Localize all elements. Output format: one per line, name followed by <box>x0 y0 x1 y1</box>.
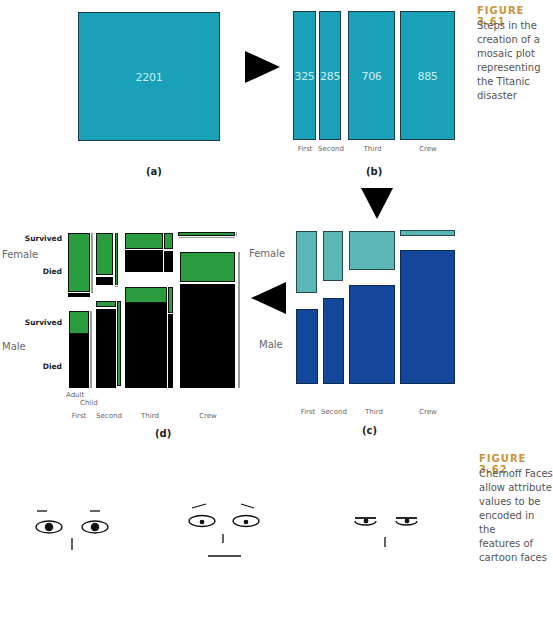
panel-d-cat-third: Third <box>132 412 168 420</box>
panel-d-label: (d) <box>155 428 171 439</box>
panel-c-label-female: Female <box>249 248 285 259</box>
panel-d-female-second-child-died <box>115 286 118 287</box>
panel-d-female-died-label: Died <box>20 267 62 276</box>
panel-c-male-third <box>349 285 395 384</box>
figure-362-caption: Chernoff Faces allow attribute values to… <box>479 467 553 565</box>
panel-d-female-third-child-survived <box>164 233 173 249</box>
panel-b-cat-crew: Crew <box>410 145 446 153</box>
panel-d-female-first-adult-survived <box>68 233 90 292</box>
panel-b-value-third: 706 <box>349 69 394 82</box>
panel-b-bar-first: 325 <box>293 11 316 140</box>
panel-d-female-third-adult-died <box>125 250 163 272</box>
panel-c-male-first <box>296 309 318 384</box>
panel-d-cat-second: Second <box>94 412 124 420</box>
chernoff-face-2 <box>189 504 259 556</box>
panel-c-female-first <box>296 231 317 293</box>
panel-b-bar-crew: 885 <box>400 11 455 140</box>
panel-c-male-second <box>323 298 344 384</box>
panel-d-male-survived-label: Survived <box>20 318 62 327</box>
panel-d-male-third-adult-died <box>125 303 167 388</box>
chernoff-face-1 <box>36 511 108 550</box>
panel-d-cat-first: First <box>68 412 90 420</box>
panel-d-male-crew-child <box>238 252 240 388</box>
panel-c-label-male: Male <box>259 339 283 350</box>
panel-d-female-crew-child <box>236 232 237 236</box>
panel-d-cat-crew: Crew <box>190 412 226 420</box>
panel-d-male-first-child <box>90 311 92 388</box>
panel-a-label: (a) <box>146 166 162 177</box>
panel-d-female-crew-survived <box>178 232 235 236</box>
panel-b-cat-first: First <box>293 145 317 153</box>
panel-d-female-first-child <box>91 233 93 293</box>
panel-d-female-crew-died <box>179 237 235 238</box>
arrow-right-icon <box>245 51 280 83</box>
panel-d-female-second-adult-died <box>96 277 113 285</box>
panel-d-age-adult: Adult <box>66 391 84 399</box>
panel-c-cat-first: First <box>296 408 320 416</box>
panel-d-female-second-adult-survived <box>96 233 113 275</box>
panel-c-female-crew <box>400 230 455 236</box>
arrow-down-icon <box>361 188 393 219</box>
panel-a-total-value: 2201 <box>79 70 219 83</box>
panel-b-value-first: 325 <box>294 69 315 82</box>
panel-d-male-second-adult-died <box>96 309 116 388</box>
panel-c-cat-third: Third <box>356 408 392 416</box>
panel-d-male-second-child-survived <box>117 301 121 386</box>
chernoff-face-3 <box>355 518 417 547</box>
panel-d-male-crew-died <box>180 284 235 388</box>
panel-d-male-third-child-survived <box>168 287 173 313</box>
panel-d-male-third-adult-survived <box>125 287 167 303</box>
arrow-left-icon <box>251 282 286 314</box>
panel-d-male-died-label: Died <box>20 362 62 371</box>
panel-b-bar-third: 706 <box>348 11 395 140</box>
panel-b-value-crew: 885 <box>401 69 454 82</box>
panel-d-label-female: Female <box>2 249 38 260</box>
panel-c-female-second <box>323 231 343 281</box>
panel-d-female-third-adult-survived <box>125 233 163 249</box>
panel-c-female-third <box>349 231 395 270</box>
panel-d-female-survived-label: Survived <box>20 234 62 243</box>
panel-b-label: (b) <box>366 166 382 177</box>
panel-b-bar-second: 285 <box>319 11 341 140</box>
panel-d-age-child: Child <box>80 399 98 407</box>
panel-d-male-second-adult-survived <box>96 301 116 307</box>
panel-d-male-third-child-died <box>168 314 173 388</box>
panel-a-total-box: 2201 <box>78 12 220 141</box>
panel-c-cat-second: Second <box>319 408 349 416</box>
panel-d-male-first-adult-survived <box>69 311 89 334</box>
panel-c-label: (c) <box>362 425 377 436</box>
chernoff-faces <box>0 500 470 632</box>
panel-d-label-male: Male <box>2 341 26 352</box>
panel-c-male-crew <box>400 250 455 384</box>
panel-d-male-first-adult-died <box>69 334 89 388</box>
panel-b-value-second: 285 <box>320 69 340 82</box>
panel-d-female-first-adult-died <box>68 293 90 297</box>
panel-d-male-crew-survived <box>180 252 235 282</box>
figure-361-caption: Steps in the creation of a mosaic plot r… <box>477 19 541 103</box>
panel-b-cat-third: Third <box>355 145 390 153</box>
panel-c-cat-crew: Crew <box>410 408 446 416</box>
panel-d-female-third-child-died <box>164 251 173 272</box>
panel-d-female-second-child-survived <box>115 233 118 285</box>
panel-b-cat-second: Second <box>316 145 346 153</box>
